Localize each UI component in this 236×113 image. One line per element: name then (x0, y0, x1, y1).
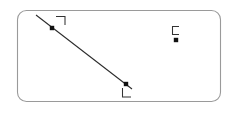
diagram-canvas (0, 0, 236, 113)
point-a-hit-area[interactable] (44, 20, 60, 36)
point-b-hit-area[interactable] (118, 76, 134, 92)
diagram-svg (0, 0, 236, 113)
point-c-hit-area[interactable] (168, 32, 184, 48)
